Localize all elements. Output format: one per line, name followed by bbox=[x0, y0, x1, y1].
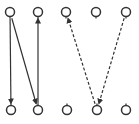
node-circle bbox=[6, 8, 15, 17]
node-b2 bbox=[34, 104, 43, 115]
graph-canvas bbox=[0, 0, 139, 124]
edge-t1-to-b1 bbox=[10, 19, 11, 104]
node-circle bbox=[122, 106, 131, 115]
edges-layer bbox=[10, 18, 124, 104]
node-t4 bbox=[92, 8, 101, 19]
node-t2 bbox=[34, 8, 43, 19]
node-circle bbox=[63, 106, 72, 115]
edge-t1-to-b2 bbox=[12, 18, 36, 104]
node-circle bbox=[62, 8, 71, 17]
node-circle bbox=[122, 8, 131, 17]
node-circle bbox=[7, 106, 16, 115]
node-b4 bbox=[93, 104, 102, 115]
node-circle bbox=[92, 8, 101, 17]
node-t1 bbox=[6, 8, 15, 19]
node-circle bbox=[34, 106, 43, 115]
edge-b4-to-t3 bbox=[68, 18, 95, 104]
graph-diagram bbox=[0, 0, 139, 124]
node-circle bbox=[93, 106, 102, 115]
node-circle bbox=[34, 8, 43, 17]
node-b1 bbox=[7, 104, 16, 115]
node-t3 bbox=[62, 8, 71, 19]
node-b5 bbox=[122, 104, 131, 115]
edge-t5-to-b4 bbox=[99, 18, 124, 104]
node-b3 bbox=[63, 104, 72, 115]
node-t5 bbox=[122, 8, 131, 19]
